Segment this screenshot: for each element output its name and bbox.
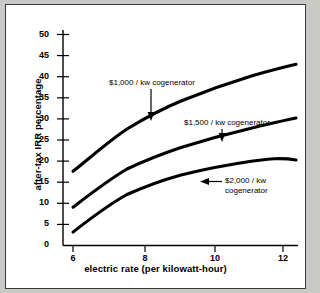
- y-tick-label: 50: [27, 29, 49, 39]
- x-axis-ticks: [73, 246, 283, 253]
- y-tick-label: 0: [27, 239, 49, 249]
- annotation-arrow-2000: [200, 178, 222, 185]
- annotation-label-1000: $1,000 / kw cogenerator: [109, 78, 195, 88]
- x-tick-label: 8: [135, 253, 155, 263]
- annotation-label-1500: $1,500 / kw cogenerator: [184, 118, 270, 128]
- annotation-arrow-1500: [219, 129, 226, 142]
- chart-figure: 50 45 40 35 30 25 20 15 10 5 0 6 8 10 12…: [5, 4, 306, 289]
- x-axis-title: electric rate (per kilowatt-hour): [6, 263, 305, 274]
- chart-plot-area: [6, 5, 305, 288]
- x-tick-label: 6: [63, 253, 83, 263]
- annotation-label-2000: $2,000 / kw cogenerator: [225, 176, 268, 196]
- x-tick-label: 12: [273, 253, 293, 263]
- x-tick-label: 10: [205, 253, 225, 263]
- y-axis-title: after-tax IRR percentage: [32, 40, 43, 230]
